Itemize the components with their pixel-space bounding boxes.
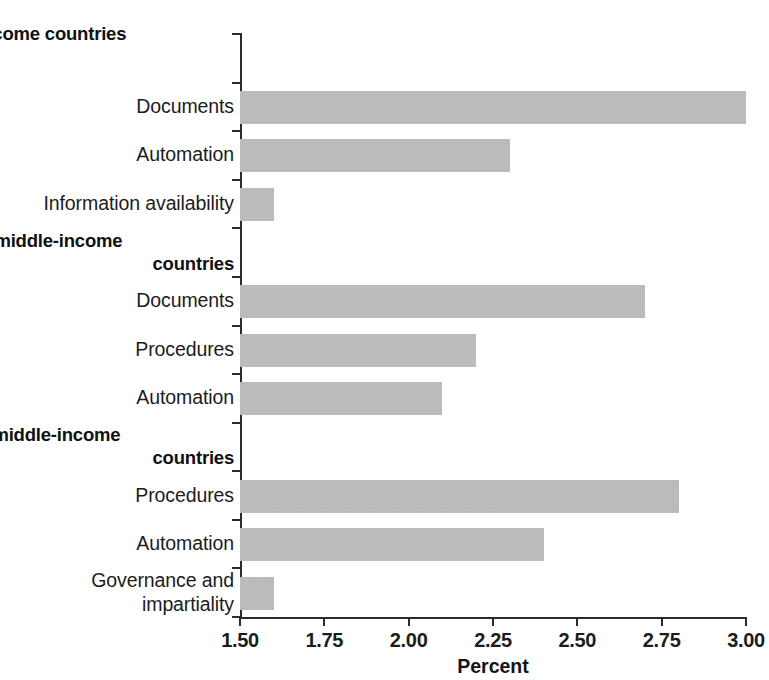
- x-tick: [576, 617, 578, 626]
- panel-title-line1: c. Upper-middle-income: [0, 423, 234, 446]
- x-axis-title: Percent: [240, 655, 746, 678]
- x-tick-label: 2.00: [369, 629, 449, 652]
- bar: [240, 188, 274, 221]
- panel-a-title: a. Low-income countries: [0, 22, 234, 45]
- bar: [240, 528, 544, 561]
- bar: [240, 334, 476, 367]
- x-tick: [745, 617, 747, 626]
- x-tick: [492, 617, 494, 626]
- category-label: Information availability: [0, 191, 234, 215]
- panel-b-title: b. Lower-middle-incomecountries: [0, 229, 234, 275]
- panel-c-title: c. Upper-middle-incomecountries: [0, 423, 234, 469]
- y-tick: [232, 325, 241, 327]
- x-tick-label: 2.25: [453, 629, 533, 652]
- category-label: Automation: [0, 142, 234, 166]
- category-label: Documents: [0, 288, 234, 312]
- x-tick: [323, 617, 325, 626]
- bar: [240, 382, 442, 415]
- panel-title-line2: countries: [0, 446, 234, 469]
- x-tick-label: 2.50: [537, 629, 617, 652]
- y-tick: [232, 33, 241, 35]
- bar: [240, 480, 679, 513]
- x-tick: [239, 617, 241, 626]
- y-tick: [232, 470, 241, 472]
- bar: [240, 285, 645, 318]
- x-tick-label: 1.50: [200, 629, 280, 652]
- y-tick: [232, 82, 241, 84]
- category-label: Automation: [0, 531, 234, 555]
- y-tick: [232, 519, 241, 521]
- bar: [240, 577, 274, 610]
- panel-a-title-line1: a. Low-income countries: [0, 22, 234, 45]
- x-tick: [661, 617, 663, 626]
- category-label: Procedures: [0, 337, 234, 361]
- category-label: Documents: [0, 94, 234, 118]
- panel-title-line1: b. Lower-middle-income: [0, 229, 234, 252]
- x-tick-label: 2.75: [622, 629, 702, 652]
- bar: [240, 91, 746, 124]
- x-tick-label: 1.75: [284, 629, 364, 652]
- x-tick-label: 3.00: [706, 629, 769, 652]
- y-tick: [232, 276, 241, 278]
- category-label: Procedures: [0, 483, 234, 507]
- category-label: Governance andimpartiality: [0, 568, 234, 616]
- y-tick: [232, 130, 241, 132]
- y-tick: [232, 179, 241, 181]
- y-tick: [232, 373, 241, 375]
- bar: [240, 139, 510, 172]
- category-label: Automation: [0, 385, 234, 409]
- panel-title-line2: countries: [0, 252, 234, 275]
- x-tick: [408, 617, 410, 626]
